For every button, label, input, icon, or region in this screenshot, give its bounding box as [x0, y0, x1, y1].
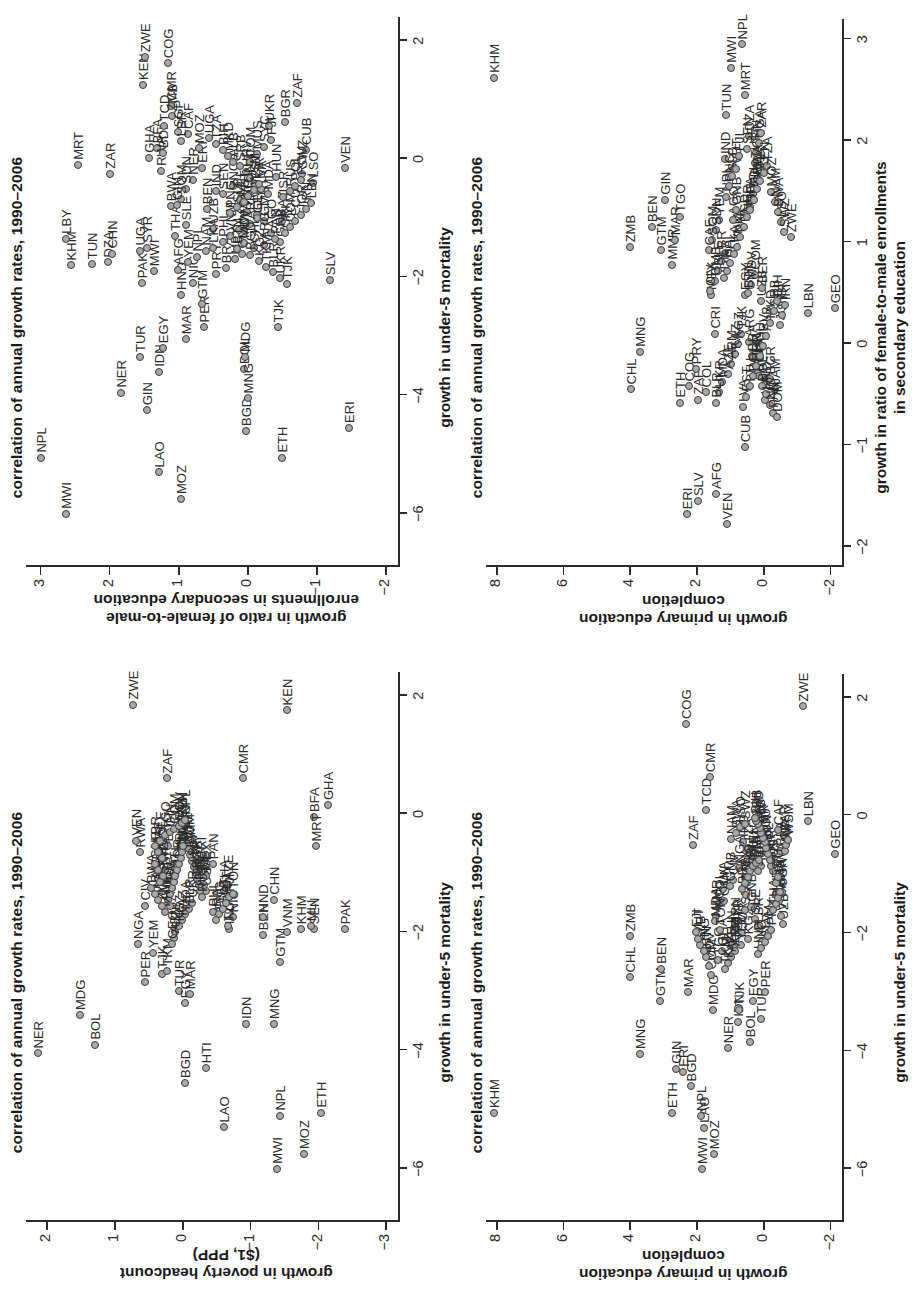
- x-tick-mark: [399, 1049, 407, 1051]
- data-point-label: BGR: [279, 89, 292, 117]
- data-point-label: GTM: [196, 270, 209, 299]
- data-point: [259, 931, 267, 939]
- data-point-label: LBN: [305, 173, 318, 198]
- data-point: [734, 1018, 742, 1026]
- data-point: [781, 301, 789, 309]
- data-point-label: ZWE: [797, 673, 810, 702]
- data-point-label: BEN: [655, 937, 668, 964]
- data-point: [141, 902, 149, 910]
- y-tick-mark: [629, 567, 631, 575]
- x-tick-mark: [843, 1167, 851, 1169]
- data-point: [182, 221, 190, 229]
- x-tick-mark: [843, 1050, 851, 1052]
- data-panel: NERBOLMDGBGDHTILAOMWIMOZNPLETHIDNMNGGTMP…: [26, 672, 399, 1222]
- y-tick-mark: [385, 567, 387, 575]
- data-point-label: BEN: [201, 177, 214, 204]
- data-point: [297, 925, 305, 933]
- x-tick-label: −6: [410, 1149, 426, 1189]
- y-tick-label: −1: [241, 1234, 257, 1266]
- x-tick-label: 2: [410, 676, 426, 716]
- x-tick-label: −2: [410, 257, 426, 297]
- data-point-label: TON: [714, 898, 727, 925]
- data-point-label: TJK: [733, 982, 746, 1005]
- data-point: [134, 940, 142, 948]
- data-point: [721, 965, 729, 973]
- data-point: [106, 170, 114, 178]
- data-point-label: BTN: [742, 262, 755, 288]
- data-point: [159, 149, 167, 157]
- panel-bottom-left-rotor: correlation of annual growth rates, 1990…: [0, 655, 460, 1310]
- x-tick-label: −6: [410, 494, 426, 534]
- y-tick-label: −1: [307, 579, 323, 611]
- data-point-label: GIN: [659, 172, 672, 195]
- data-point: [260, 143, 268, 151]
- data-point: [804, 817, 812, 825]
- data-point: [220, 1123, 228, 1131]
- y-axis-label: growth in primary educationcompletion: [540, 1247, 826, 1284]
- data-point-label: AFG: [172, 238, 185, 265]
- data-point: [779, 920, 787, 928]
- plot-title: correlation of annual growth rates, 1990…: [8, 0, 26, 655]
- x-tick-label: 2: [410, 21, 426, 61]
- data-point: [657, 965, 665, 973]
- x-tick-mark: [399, 512, 407, 514]
- y-tick-label: 6: [554, 1234, 570, 1266]
- y-tick-mark: [496, 1222, 498, 1230]
- data-point-label: ZAR: [755, 102, 768, 128]
- y-tick-label: 2: [37, 1234, 53, 1266]
- data-point-label: MWI: [725, 36, 738, 63]
- data-point: [209, 244, 217, 252]
- data-point: [767, 926, 775, 934]
- data-point: [657, 246, 665, 254]
- data-point: [671, 236, 679, 244]
- data-point: [751, 814, 759, 822]
- data-point-label: LBN: [802, 791, 815, 816]
- x-tick-label: −2: [410, 912, 426, 952]
- y-tick-mark: [178, 567, 180, 575]
- data-point: [712, 490, 720, 498]
- data-point: [757, 1015, 765, 1023]
- data-point: [626, 973, 634, 981]
- data-point: [283, 280, 291, 288]
- data-point-label: YEM: [147, 920, 160, 948]
- data-point-label: LAO: [218, 1096, 231, 1122]
- data-point: [273, 1165, 281, 1173]
- data-point-label: MNG: [242, 363, 255, 393]
- data-point-label: SLV: [324, 252, 337, 276]
- data-point-label: MWI: [148, 240, 161, 267]
- data-point-label: ERI: [343, 401, 356, 423]
- x-tick-mark: [399, 39, 407, 41]
- data-point: [212, 270, 220, 278]
- y-tick-label: 1: [169, 579, 185, 611]
- data-point-label: MRT: [739, 62, 752, 90]
- y-tick-label: −3: [376, 1234, 392, 1266]
- y-axis-label: growth in ratio of female-to-maleenrollm…: [76, 591, 376, 628]
- data-point: [241, 353, 249, 361]
- data-point: [627, 385, 635, 393]
- data-point: [692, 928, 700, 936]
- data-point: [300, 1150, 308, 1158]
- data-point: [787, 233, 795, 241]
- data-point: [163, 967, 171, 975]
- data-point-label: TUN: [86, 233, 99, 260]
- data-point-label: MAR: [184, 960, 197, 989]
- data-point-label: GIN: [171, 177, 184, 200]
- x-tick-mark: [399, 694, 407, 696]
- x-tick-label: 2: [854, 678, 870, 718]
- data-point: [773, 413, 781, 421]
- data-point: [676, 399, 684, 407]
- data-point: [694, 935, 702, 943]
- data-point: [709, 1006, 717, 1014]
- x-tick-label: −4: [410, 1031, 426, 1071]
- data-point: [683, 510, 691, 518]
- y-tick-label: 8: [487, 1234, 503, 1266]
- data-point-label: TJK: [272, 299, 285, 322]
- data-point: [317, 1109, 325, 1117]
- plot-bottom-left: correlation of annual growth rates, 1990…: [0, 655, 460, 1310]
- y-tick-label: 0: [754, 1234, 770, 1266]
- y-tick-mark: [563, 567, 565, 575]
- data-point: [799, 702, 807, 710]
- data-point: [732, 165, 740, 173]
- data-point: [724, 1044, 732, 1052]
- data-point-label: TON: [227, 862, 240, 889]
